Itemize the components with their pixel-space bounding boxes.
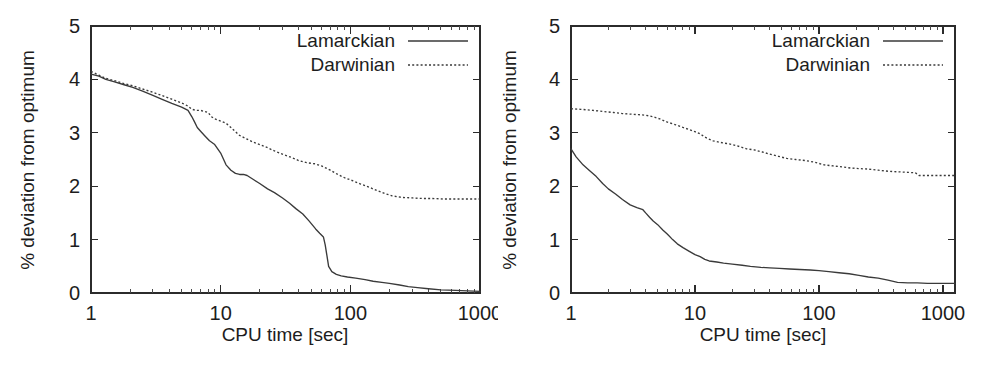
y-tick-label-4: 4: [549, 68, 560, 90]
x-axis-title-right: CPU time [sec]: [700, 324, 827, 345]
x-tick-label-1000: 1000: [921, 302, 966, 324]
legend-label-lamarckian-left: Lamarckian: [297, 30, 395, 51]
y-axis-title-right: % deviation from optimum: [499, 50, 520, 270]
x-tick-label-100: 100: [334, 302, 367, 324]
y-tick-label-4: 4: [69, 68, 80, 90]
x-tick-label-1000: 1000: [458, 302, 498, 324]
figure-container: 012345 1101001000 CPU time [sec] % devia…: [0, 0, 996, 367]
series-darwinian-right: [571, 109, 955, 176]
y-tick-label-0: 0: [549, 282, 560, 304]
chart-panel-right: 012345 1101001000 CPU time [sec] % devia…: [498, 0, 996, 367]
y-tick-label-5: 5: [549, 15, 560, 37]
chart-panel-left: 012345 1101001000 CPU time [sec] % devia…: [0, 0, 498, 367]
plot-frame-left: [91, 26, 480, 293]
legend-label-lamarckian-right: Lamarckian: [772, 30, 870, 51]
y-axis-ticks-right: [571, 26, 955, 293]
y-axis-ticks-left: [91, 26, 480, 293]
x-axis-tick-labels-right: 1101001000: [565, 302, 965, 324]
legend-label-darwinian-left: Darwinian: [311, 54, 395, 75]
legend-right: Lamarckian Darwinian: [772, 30, 943, 75]
chart-svg-right: 012345 1101001000 CPU time [sec] % devia…: [498, 0, 996, 367]
y-tick-label-3: 3: [549, 122, 560, 144]
y-tick-label-0: 0: [69, 282, 80, 304]
x-tick-label-100: 100: [802, 302, 835, 324]
series-lamarckian-left: [91, 74, 480, 291]
legend-left: Lamarckian Darwinian: [297, 30, 468, 75]
x-tick-label-1: 1: [85, 302, 96, 324]
y-axis-tick-labels-right: 012345: [549, 15, 560, 304]
x-axis-title-left: CPU time [sec]: [222, 324, 349, 345]
x-tick-label-10: 10: [210, 302, 232, 324]
x-axis-ticks-right: [571, 26, 943, 293]
series-lamarckian-right: [571, 149, 955, 284]
y-tick-label-2: 2: [549, 175, 560, 197]
y-axis-title-left: % deviation from optimum: [17, 50, 38, 270]
legend-label-darwinian-right: Darwinian: [786, 54, 870, 75]
series-darwinian-left: [91, 71, 480, 199]
chart-svg-left: 012345 1101001000 CPU time [sec] % devia…: [0, 0, 498, 367]
x-tick-label-10: 10: [684, 302, 706, 324]
y-tick-label-1: 1: [549, 229, 560, 251]
x-tick-label-1: 1: [565, 302, 576, 324]
plot-frame-right: [571, 26, 955, 293]
y-tick-label-5: 5: [69, 15, 80, 37]
x-axis-ticks-left: [91, 26, 480, 293]
y-tick-label-3: 3: [69, 122, 80, 144]
y-tick-label-2: 2: [69, 175, 80, 197]
x-axis-tick-labels-left: 1101001000: [85, 302, 498, 324]
y-axis-tick-labels-left: 012345: [69, 15, 80, 304]
y-tick-label-1: 1: [69, 229, 80, 251]
